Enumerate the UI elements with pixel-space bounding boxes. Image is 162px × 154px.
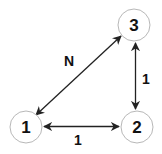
graph-diagram: N 1 1 1 2 3 [0, 0, 162, 154]
node-2-label: 2 [132, 118, 141, 137]
node-3-label: 3 [129, 16, 138, 35]
node-2[interactable]: 2 [121, 111, 153, 143]
edge-label-2-3: 1 [142, 71, 150, 87]
edge-1-3: N [36, 36, 121, 115]
node-1-label: 1 [21, 118, 30, 137]
node-1[interactable]: 1 [10, 111, 42, 143]
edge-1-2: 1 [44, 127, 119, 149]
edge-2-3: 1 [136, 43, 151, 109]
graph-svg: N 1 1 1 2 3 [0, 0, 162, 154]
edge-label-n: N [64, 53, 74, 69]
edge-label-1-2: 1 [74, 132, 82, 148]
node-3[interactable]: 3 [118, 9, 150, 41]
